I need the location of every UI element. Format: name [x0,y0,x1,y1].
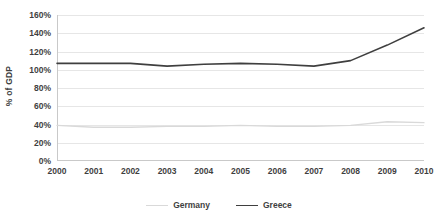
y-axis-tick: 20% [34,138,51,148]
x-axis-tick: 2010 [415,166,434,176]
y-axis-title-label: % of GDP [4,66,14,106]
x-axis-tick: 2009 [378,166,397,176]
y-axis-tick: 160% [29,10,51,20]
legend-swatch-greece [236,205,258,206]
chart-legend: GermanyGreece [0,196,438,214]
x-axis-tick: 2004 [194,166,213,176]
x-axis-tick: 2008 [341,166,360,176]
y-axis-tick: 100% [29,65,51,75]
series-container [57,15,424,161]
x-axis-tick: 2005 [231,166,250,176]
series-line-germany [57,122,424,127]
y-axis-tick: 40% [34,120,51,130]
y-axis-tick: 140% [29,28,51,38]
x-axis-tick: 2007 [304,166,323,176]
y-axis-tick: 80% [34,83,51,93]
x-axis-tick: 2002 [121,166,140,176]
series-line-greece [57,28,424,66]
y-axis-tick: 60% [34,101,51,111]
x-axis-tick: 2001 [84,166,103,176]
legend-item-germany[interactable]: Germany [146,200,210,210]
plot-area [57,15,424,161]
x-axis-tick: 2003 [158,166,177,176]
x-axis-tick: 2006 [268,166,287,176]
legend-swatch-germany [146,205,168,206]
x-axis-tick-labels: 2000200120022003200420052006200720082009… [57,166,424,182]
y-axis-title: % of GDP [0,0,18,172]
line-chart: % of GDP 160%140%120%100%80%60%40%20%0% … [0,0,438,221]
legend-label: Greece [263,200,292,210]
x-axis-tick: 2000 [48,166,67,176]
y-axis-tick: 0% [39,156,51,166]
legend-item-greece[interactable]: Greece [236,200,292,210]
y-axis-tick: 120% [29,47,51,57]
y-axis-tick-labels: 160%140%120%100%80%60%40%20%0% [18,8,54,162]
legend-label: Germany [173,200,210,210]
